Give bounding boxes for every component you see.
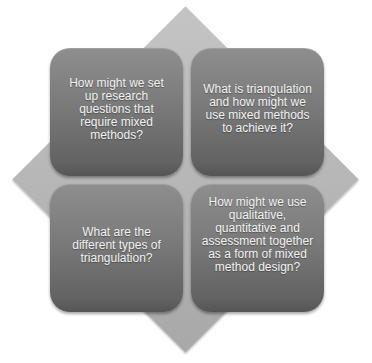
quadrant-bottom-left-text: What are the different types of triangul… [62, 226, 172, 265]
quadrant-top-left-text: How might we set up research questions t… [67, 77, 167, 142]
quadrant-bottom-right-text: How might we use qualitative, quantitati… [199, 196, 316, 274]
quadrant-top-right: What is triangulation and how might we u… [191, 48, 324, 176]
quadrant-top-right-text: What is triangulation and how might we u… [199, 83, 316, 135]
quadrant-top-left: How might we set up research questions t… [50, 48, 183, 176]
quadrant-bottom-right: How might we use qualitative, quantitati… [191, 184, 324, 312]
quadrant-bottom-left: What are the different types of triangul… [50, 184, 183, 312]
